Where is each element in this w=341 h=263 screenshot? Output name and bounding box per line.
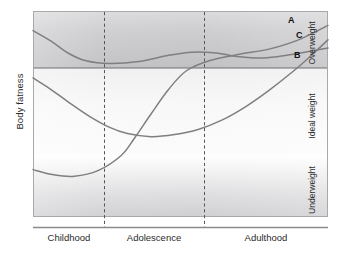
- zone-bands: [33, 11, 328, 217]
- body-fatness-chart: Body fatness: [0, 0, 341, 263]
- x-tick-label-adulthood: Adulthood: [226, 232, 306, 243]
- y-axis-label: Body fatness: [14, 57, 25, 147]
- curve-label-c: C: [296, 30, 303, 40]
- x-tick-label-childhood: Childhood: [34, 232, 104, 243]
- zone-label-underweight: Underweight: [307, 155, 317, 225]
- curve-label-b: B: [294, 50, 301, 60]
- zone-horizontal-shade: [33, 11, 328, 217]
- chart-plot-area: [0, 0, 341, 263]
- x-tick-label-adolescence: Adolescence: [114, 232, 194, 243]
- curve-label-a: A: [288, 15, 295, 25]
- zone-label-overweight: Overweight: [307, 8, 317, 78]
- zone-label-ideal-weight: Ideal weight: [307, 81, 317, 151]
